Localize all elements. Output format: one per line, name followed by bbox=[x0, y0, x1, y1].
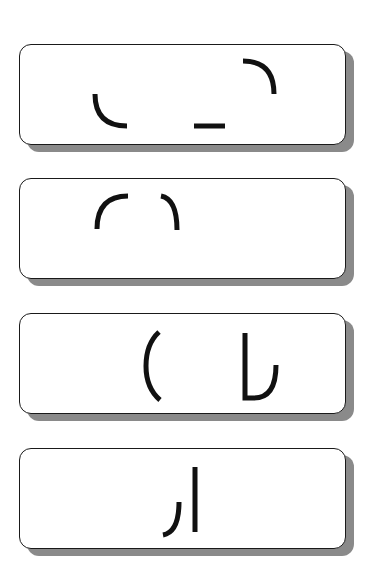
bottom-left-arc-stroke bbox=[95, 94, 127, 126]
left-arc-stroke bbox=[97, 196, 128, 229]
fragment-card-4[interactable] bbox=[19, 448, 346, 549]
card-2-glyph-fragments-icon bbox=[1, 179, 375, 280]
top-right-arc-stroke bbox=[243, 61, 274, 94]
fragment-card-3[interactable] bbox=[19, 313, 346, 414]
fragment-card-1[interactable] bbox=[19, 44, 346, 145]
fragment-card-2[interactable] bbox=[19, 178, 346, 279]
card-1-glyph-fragments-icon bbox=[1, 45, 375, 146]
card-4-glyph-fragments-icon bbox=[1, 449, 375, 550]
left-paren-stroke bbox=[146, 332, 160, 400]
right-arc-stroke bbox=[161, 196, 177, 230]
hook-shape-stroke bbox=[245, 333, 276, 398]
fragment-cards-stage bbox=[0, 0, 375, 571]
left-hook-stroke bbox=[163, 502, 179, 535]
card-3-glyph-fragments-icon bbox=[1, 314, 375, 415]
